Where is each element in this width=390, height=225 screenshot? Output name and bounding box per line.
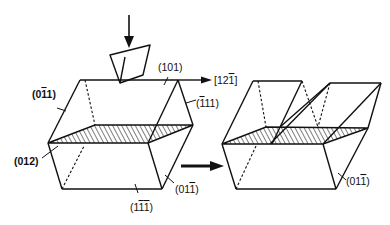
shear-plane-012: [48, 125, 193, 143]
label-right-face: (111): [196, 97, 219, 109]
label-direction: [121]: [214, 74, 237, 86]
shear-direction-arrow: [121]: [178, 74, 237, 86]
crystal-shear-diagram: (101) (011) (111) (012) (011) (111) [121…: [0, 0, 390, 225]
load-arrow: [124, 15, 134, 48]
label-front-right-face: (011): [175, 183, 199, 195]
left-crystal: (101) (011) (111) (012) (011) (111): [14, 61, 219, 213]
label-bottom-face: (111): [130, 201, 153, 213]
label-top-face: (101): [158, 61, 183, 73]
label-right-front-face: (011): [346, 175, 370, 187]
right-crystal: (011): [222, 81, 381, 189]
transformation-arrow: [181, 161, 224, 171]
label-shear-plane: (012): [14, 155, 39, 167]
indenter: [110, 45, 150, 83]
shear-plane-sheared: [222, 127, 368, 144]
label-left-face: (011): [32, 88, 56, 100]
